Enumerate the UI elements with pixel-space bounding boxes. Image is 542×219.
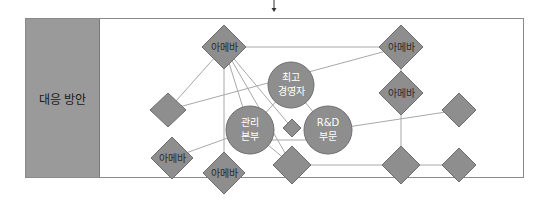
diamond-node-bottom-right-center	[382, 146, 420, 184]
edges	[168, 47, 459, 173]
diamond-node-bottom-right	[442, 148, 476, 182]
rnd-node	[304, 106, 352, 154]
nodes	[150, 25, 476, 194]
diamond-node-left	[150, 93, 186, 127]
admin-label-line1: 관리	[241, 117, 259, 128]
admin-label-line2: 본부	[241, 131, 259, 142]
ceo-label-line2: 경영자	[278, 85, 305, 97]
ceo-node	[268, 62, 314, 108]
amoeba-label-top-left: 아메바	[211, 42, 238, 53]
rnd-label-line1: R&D	[317, 117, 340, 128]
amoeba-label-bottom-left: 아메바	[159, 153, 186, 164]
rnd-label-line2: 부문	[319, 131, 337, 142]
diamond-node-right-mid	[442, 93, 476, 127]
admin-node	[226, 106, 274, 154]
amoeba-label-top-right: 아메바	[388, 42, 415, 53]
amoeba-label-bottom: 아메바	[211, 168, 238, 179]
amoeba-label-right-second: 아메바	[388, 88, 415, 99]
diamond-node-bottom-center	[273, 146, 311, 184]
diamond-node-small-center	[283, 119, 301, 137]
amoeba-network-diagram: 아메바 아메바 아메바 아메바 아메바 최고 경영자 관리 본부 R&D 부문	[0, 0, 542, 219]
ceo-label-line1: 최고	[282, 72, 300, 83]
